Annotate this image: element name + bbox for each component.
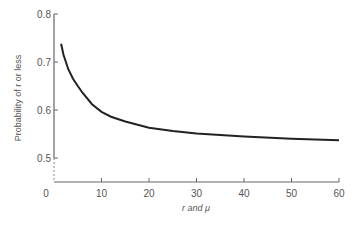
y-tick-label: 0.7: [37, 57, 51, 68]
x-tick-label: 20: [143, 188, 155, 199]
x-tick-label: 40: [238, 188, 250, 199]
axes: 01020304050600.50.60.70.8: [37, 9, 345, 200]
y-tick-label: 0.5: [37, 153, 51, 164]
chart-svg: 01020304050600.50.60.70.8 r and μ Probab…: [0, 0, 357, 226]
probability-curve: [61, 44, 339, 140]
x-tick-label: 60: [333, 188, 345, 199]
x-tick-label: 30: [191, 188, 203, 199]
y-axis-label: Probability of r or less: [13, 54, 23, 141]
x-axis-label: r and μ: [182, 203, 210, 213]
chart: 01020304050600.50.60.70.8 r and μ Probab…: [0, 0, 357, 226]
x-tick-label: 0: [43, 188, 49, 199]
y-tick-label: 0.6: [37, 105, 51, 116]
x-tick-label: 50: [286, 188, 298, 199]
y-tick-label: 0.8: [37, 9, 51, 20]
x-tick-label: 10: [96, 188, 108, 199]
